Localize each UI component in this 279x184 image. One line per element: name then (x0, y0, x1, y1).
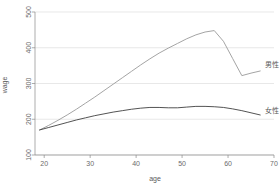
line-chart: 100200300400500 203040506070 男性女性 age wa… (0, 0, 279, 184)
x-tick-label: 70 (270, 160, 278, 167)
y-axis-ticks: 100200300400500 (25, 6, 35, 161)
series-label: 女性 (265, 106, 279, 115)
y-tick-label: 500 (25, 6, 32, 18)
x-tick-label: 20 (40, 160, 48, 167)
data-series-group (40, 31, 261, 130)
chart-canvas: 100200300400500 203040506070 男性女性 age wa… (0, 0, 279, 184)
x-tick-label: 30 (86, 160, 94, 167)
x-axis-ticks: 203040506070 (40, 155, 278, 167)
y-tick-label: 100 (25, 149, 32, 161)
x-axis-title: age (149, 175, 161, 183)
series-line (40, 106, 261, 130)
y-tick-label: 200 (25, 113, 32, 125)
series-line (40, 31, 261, 130)
y-tick-label: 400 (25, 42, 32, 54)
x-axis: 203040506070 (35, 155, 278, 167)
y-axis: 100200300400500 (25, 6, 35, 161)
series-label: 男性 (265, 60, 279, 69)
y-tick-label: 300 (25, 78, 32, 90)
gridlines (35, 12, 274, 155)
x-tick-label: 50 (178, 160, 186, 167)
y-axis-title: wage (1, 77, 9, 95)
x-tick-label: 40 (132, 160, 140, 167)
x-tick-label: 60 (224, 160, 232, 167)
series-inline-labels: 男性女性 (265, 60, 279, 115)
